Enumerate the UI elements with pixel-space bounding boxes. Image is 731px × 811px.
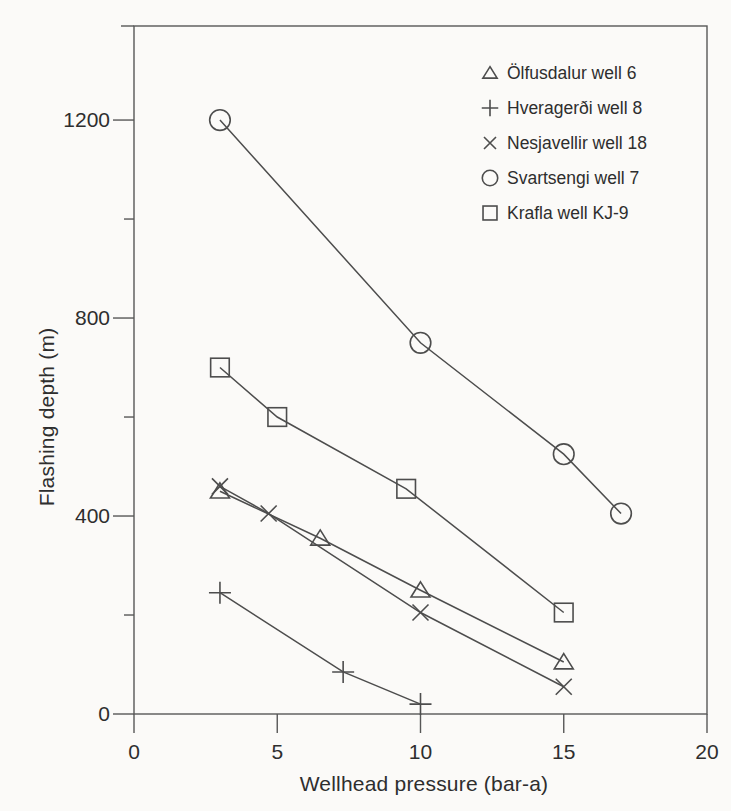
legend-circle-icon (482, 170, 497, 185)
legend-item: Ölfusdalur well 6 (483, 63, 637, 83)
legend-x-icon (484, 137, 496, 149)
legend-item: Nesjavellir well 18 (484, 133, 647, 153)
x-tick-label: 5 (271, 740, 283, 763)
series-plus (209, 582, 432, 715)
legend-item: Svartsengi well 7 (482, 168, 639, 188)
x-marker-icon (556, 679, 572, 695)
legend-item-label: Ölfusdalur well 6 (507, 63, 636, 83)
series-line-plus (220, 593, 421, 704)
legend-item-label: Hveragerði well 8 (507, 98, 642, 118)
chart-canvas: 0400800120005101520Ölfusdalur well 6Hver… (0, 0, 731, 811)
legend-item-label: Svartsengi well 7 (507, 168, 639, 188)
legend-item: Hveragerði well 8 (482, 98, 642, 118)
y-tick-label: 400 (75, 504, 110, 527)
x-tick-label: 10 (409, 740, 432, 763)
x-marker-icon (413, 605, 429, 621)
legend-item: Krafla well KJ-9 (483, 203, 629, 223)
x-tick-label: 15 (552, 740, 575, 763)
legend-plus-icon (482, 100, 499, 117)
y-tick-label: 800 (75, 306, 110, 329)
x-tick-label: 0 (128, 740, 140, 763)
series-x (212, 478, 572, 694)
legend: Ölfusdalur well 6Hveragerði well 8Nesjav… (482, 63, 647, 223)
y-tick-label: 0 (98, 702, 110, 725)
y-axis-title: Flashing depth (m) (35, 328, 59, 507)
plus-marker-icon (332, 661, 354, 683)
series-square (211, 358, 573, 622)
chart-figure: 0400800120005101520Ölfusdalur well 6Hver… (0, 0, 731, 811)
plot-frame (134, 26, 707, 714)
x-tick-label: 20 (695, 740, 718, 763)
legend-square-icon (483, 206, 497, 220)
legend-item-label: Nesjavellir well 18 (507, 133, 647, 153)
y-tick-label: 1200 (63, 108, 110, 131)
plus-marker-icon (410, 693, 432, 715)
legend-triangle-icon (483, 67, 497, 78)
plus-marker-icon (209, 582, 231, 604)
x-axis-title: Wellhead pressure (bar-a) (134, 772, 714, 796)
legend-item-label: Krafla well KJ-9 (507, 203, 629, 223)
x-marker-icon (261, 506, 277, 522)
